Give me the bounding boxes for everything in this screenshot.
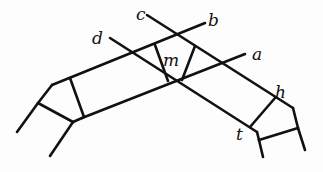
diagram-svg: d c b a m h t (0, 0, 323, 172)
diagram-canvas: d c b a m h t (0, 0, 323, 172)
left-end-joint (73, 118, 82, 122)
right-end-outer-leg (298, 128, 305, 150)
right-end-inner-leg (259, 140, 263, 157)
label-c: c (136, 4, 146, 24)
right-end-crossbar (259, 128, 298, 140)
left-end-inner-leg (50, 122, 73, 156)
label-t: t (236, 124, 243, 144)
left-upper-edge (52, 23, 205, 85)
left-end-crossbar (38, 103, 73, 122)
left-crossbar (70, 78, 84, 117)
label-a: a (252, 44, 262, 64)
label-h: h (275, 82, 286, 102)
label-b: b (208, 10, 219, 30)
left-end-outer-leg (17, 103, 38, 132)
left-end-upper-edge (38, 85, 52, 103)
right-end-upper-leg (293, 108, 298, 128)
line-d (110, 38, 257, 132)
label-m: m (163, 50, 179, 70)
label-d: d (92, 28, 103, 48)
h-crossbar (250, 98, 275, 127)
